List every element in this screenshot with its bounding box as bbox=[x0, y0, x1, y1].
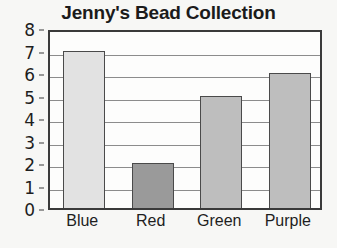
plot-area bbox=[48, 30, 322, 210]
y-tick-mark bbox=[39, 120, 44, 121]
y-tick-label: 2 bbox=[24, 157, 35, 174]
bar-green bbox=[200, 96, 242, 209]
bar-red bbox=[132, 163, 174, 208]
y-tick-label: 6 bbox=[24, 67, 35, 84]
bar-blue bbox=[63, 51, 105, 209]
y-tick-label: 1 bbox=[24, 179, 35, 196]
x-tick-label-red: Red bbox=[117, 212, 186, 230]
x-tick-label-blue: Blue bbox=[48, 212, 117, 230]
y-tick-label: 5 bbox=[24, 89, 35, 106]
y-tick-label: 4 bbox=[24, 112, 35, 129]
chart-title: Jenny's Bead Collection bbox=[0, 2, 337, 24]
bar-purple bbox=[269, 73, 311, 208]
y-tick-mark bbox=[39, 52, 44, 53]
bar-chart-figure: Jenny's Bead Collection 012345678 BlueRe… bbox=[0, 0, 337, 248]
y-tick-label: 3 bbox=[24, 134, 35, 151]
y-tick-mark bbox=[39, 75, 44, 76]
y-axis: 012345678 bbox=[0, 30, 44, 210]
x-axis: BlueRedGreenPurple bbox=[48, 212, 322, 238]
y-tick-mark bbox=[39, 97, 44, 98]
y-tick-mark bbox=[39, 142, 44, 143]
y-tick-mark bbox=[39, 210, 44, 211]
y-tick-mark bbox=[39, 30, 44, 31]
x-tick-label-green: Green bbox=[185, 212, 254, 230]
y-tick-mark bbox=[39, 187, 44, 188]
y-tick-mark bbox=[39, 165, 44, 166]
bars-layer bbox=[50, 32, 320, 208]
x-tick-label-purple: Purple bbox=[254, 212, 323, 230]
y-tick-label: 8 bbox=[24, 22, 35, 39]
y-tick-label: 7 bbox=[24, 44, 35, 61]
y-tick-label: 0 bbox=[24, 202, 35, 219]
